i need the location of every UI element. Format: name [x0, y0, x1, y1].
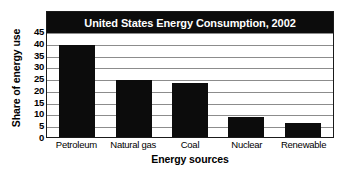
y-tick-label-5: 5 [20, 122, 44, 130]
x-tick-label-coal: Coal [162, 139, 219, 153]
y-tick-label-35: 35 [20, 52, 44, 60]
x-tick-label-nuclear: Nuclear [218, 139, 275, 153]
bar-slot [218, 33, 274, 137]
y-tick-label-25: 25 [20, 75, 44, 83]
chart-title: United States Energy Consumption, 2002 [84, 17, 295, 29]
plot-canvas [47, 33, 333, 137]
plot-area: United States Energy Consumption, 2002 [46, 11, 334, 138]
y-axis-tick-labels: 051015202530354045 [20, 32, 44, 138]
bar-slot [162, 33, 218, 137]
bar-series [47, 33, 333, 137]
x-axis-tick-labels: PetroleumNatural gasCoalNuclearRenewable [46, 139, 334, 153]
x-tick-label-renewable: Renewable [275, 139, 332, 153]
y-tick-label-0: 0 [20, 134, 44, 142]
y-tick-label-45: 45 [20, 28, 44, 36]
bar-petroleum[interactable] [59, 45, 95, 137]
y-tick-label-10: 10 [20, 110, 44, 118]
bar-renewable[interactable] [285, 123, 321, 137]
chart-figure: Share of energy use 051015202530354045 U… [0, 0, 342, 179]
bar-slot [275, 33, 331, 137]
bar-natural-gas[interactable] [116, 80, 152, 137]
y-tick-label-20: 20 [20, 87, 44, 95]
bar-slot [105, 33, 161, 137]
y-tick-label-30: 30 [20, 63, 44, 71]
x-axis-title: Energy sources [46, 153, 334, 165]
bar-nuclear[interactable] [228, 117, 264, 137]
y-tick-label-15: 15 [20, 99, 44, 107]
bar-coal[interactable] [172, 83, 208, 137]
bar-slot [49, 33, 105, 137]
y-tick-label-40: 40 [20, 40, 44, 48]
x-tick-label-natural-gas: Natural gas [105, 139, 162, 153]
chart-title-banner: United States Energy Consumption, 2002 [47, 12, 333, 33]
x-tick-label-petroleum: Petroleum [48, 139, 105, 153]
